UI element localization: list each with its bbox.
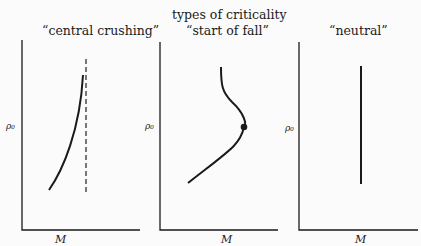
- y-axis-label-2: ρ₀: [145, 121, 154, 131]
- turning-point-dot: [241, 124, 248, 131]
- y-axis-label-1: ρ₀: [6, 121, 15, 131]
- panel-start-of-fall: [160, 42, 278, 230]
- equilibrium-curve: [49, 75, 83, 190]
- axes: [299, 42, 418, 230]
- equilibrium-curve: [188, 67, 245, 183]
- panel-central-crushing: [22, 40, 140, 230]
- diagram-canvas: [0, 0, 421, 246]
- axes: [22, 40, 140, 230]
- y-axis-label-3: ρ₀: [285, 123, 294, 133]
- x-axis-label-1: M: [55, 233, 66, 246]
- panel-neutral: [299, 42, 418, 230]
- axes: [160, 42, 278, 230]
- x-axis-label-3: M: [355, 233, 366, 246]
- x-axis-label-2: M: [221, 233, 232, 246]
